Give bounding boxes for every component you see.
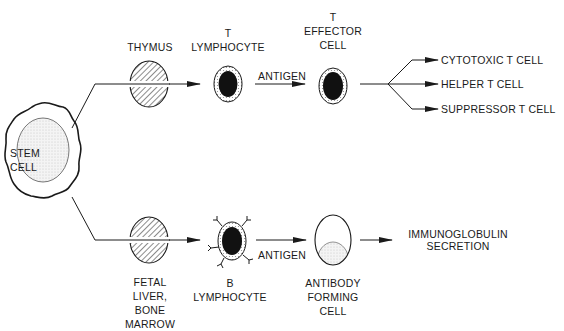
thymus-organ	[129, 61, 170, 107]
thymus-label: THYMUS	[120, 40, 180, 54]
output-suppressor-t-cell: SUPPRESSOR T CELL	[441, 102, 555, 116]
output-cytotoxic-t-cell: CYTOTOXIC T CELL	[441, 53, 543, 67]
label-line: LYMPHOCYTE	[190, 290, 270, 304]
label-line: ANTIBODY	[300, 276, 366, 290]
label-line: T	[190, 26, 266, 40]
label-line: EFFECTOR	[300, 24, 366, 38]
t-effector-label: T EFFECTOR CELL	[300, 10, 366, 52]
label-line: FORMING	[300, 290, 366, 304]
stem-cell-label: STEM CELL	[10, 146, 40, 174]
t-lymphocyte-cell	[214, 66, 242, 102]
label-line: SECRETION	[398, 240, 518, 252]
label-line: LIVER,	[120, 289, 180, 303]
diagram-canvas	[0, 0, 564, 331]
label-line: B	[190, 276, 270, 290]
output-helper-t-cell: HELPER T CELL	[441, 77, 524, 91]
label-line: T	[300, 10, 366, 24]
b-lymphocyte-cell	[208, 216, 253, 268]
label-line: MARROW	[120, 317, 180, 331]
label-line: FETAL	[120, 275, 180, 289]
label-line: LYMPHOCYTE	[190, 40, 266, 54]
immunoglobulin-secretion-label: IMMUNOGLOBULIN SECRETION	[398, 228, 518, 252]
label-line: CELL	[300, 38, 366, 52]
label-line: CELL	[10, 160, 40, 174]
antigen-label-upper: ANTIGEN	[254, 69, 310, 83]
b-lymphocyte-label: B LYMPHOCYTE	[190, 276, 270, 304]
t-cell-branch-arrows	[360, 60, 438, 109]
antibody-forming-cell-label: ANTIBODY FORMING CELL	[300, 276, 366, 318]
t-effector-cell	[319, 68, 347, 104]
label-line: STEM	[10, 146, 40, 160]
label-line: BONE	[120, 303, 180, 317]
t-lymphocyte-label: T LYMPHOCYTE	[190, 26, 266, 54]
antibody-forming-cell	[315, 215, 351, 282]
label-line: IMMUNOGLOBULIN	[398, 228, 518, 240]
fetal-liver-bone-marrow-label: FETAL LIVER, BONE MARROW	[120, 275, 180, 331]
fetal-liver-organ	[129, 217, 170, 263]
label-line: CELL	[300, 304, 366, 318]
antigen-label-lower: ANTIGEN	[254, 248, 310, 262]
